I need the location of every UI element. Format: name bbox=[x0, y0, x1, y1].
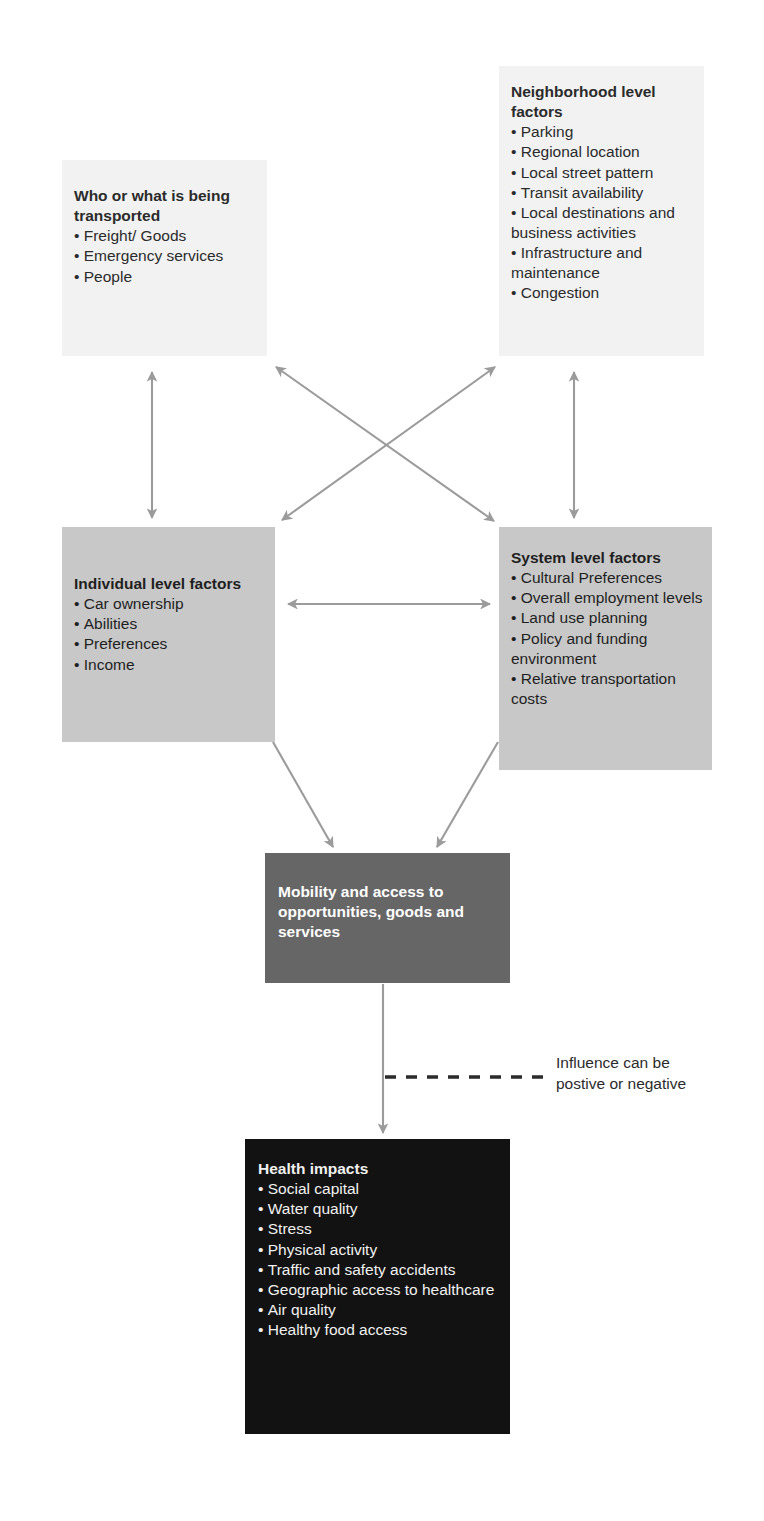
box-mobility[interactable]: Mobility and access to opportunities, go… bbox=[265, 853, 510, 983]
list-item: Congestion bbox=[511, 283, 700, 303]
list-item: Physical activity bbox=[258, 1240, 502, 1260]
influence-annotation-line2: postive or negative bbox=[556, 1074, 756, 1095]
list-item: Car ownership bbox=[74, 594, 267, 614]
list-item: Land use planning bbox=[511, 608, 708, 628]
list-item: Transit availability bbox=[511, 183, 700, 203]
list-item: Overall employment levels bbox=[511, 588, 708, 608]
box-health[interactable]: Health impacts Social capital Water qual… bbox=[245, 1139, 510, 1434]
list-item: People bbox=[74, 267, 257, 287]
box-neighborhood[interactable]: Neighborhood level factors Parking Regio… bbox=[499, 66, 704, 356]
list-item: Freight/ Goods bbox=[74, 226, 257, 246]
list-item: Emergency services bbox=[74, 246, 257, 266]
box-system[interactable]: System level factors Cultural Preference… bbox=[499, 527, 712, 770]
influence-annotation-line1: Influence can be bbox=[556, 1053, 756, 1074]
box-transported-list: Freight/ Goods Emergency services People bbox=[74, 226, 257, 286]
box-individual-list: Car ownership Abilities Preferences Inco… bbox=[74, 594, 267, 675]
list-item: Relative transportation costs bbox=[511, 669, 708, 709]
list-item: Traffic and safety accidents bbox=[258, 1260, 502, 1280]
list-item: Local street pattern bbox=[511, 163, 700, 183]
box-individual-title: Individual level factors bbox=[74, 574, 267, 594]
box-health-title: Health impacts bbox=[258, 1159, 502, 1179]
list-item: Stress bbox=[258, 1219, 502, 1239]
box-individual[interactable]: Individual level factors Car ownership A… bbox=[62, 527, 275, 742]
box-system-title: System level factors bbox=[511, 548, 708, 568]
box-system-list: Cultural Preferences Overall employment … bbox=[511, 568, 708, 709]
list-item: Preferences bbox=[74, 634, 267, 654]
box-transported[interactable]: Who or what is being transported Freight… bbox=[62, 160, 267, 356]
box-mobility-title: Mobility and access to opportunities, go… bbox=[278, 882, 500, 942]
box-health-list: Social capital Water quality Stress Phys… bbox=[258, 1179, 502, 1340]
list-item: Policy and funding environment bbox=[511, 629, 708, 669]
list-item: Cultural Preferences bbox=[511, 568, 708, 588]
list-item: Local destinations and business activiti… bbox=[511, 203, 700, 243]
connector-system-mobility bbox=[437, 742, 498, 847]
influence-annotation: Influence can be postive or negative bbox=[556, 1053, 756, 1094]
list-item: Abilities bbox=[74, 614, 267, 634]
list-item: Social capital bbox=[258, 1179, 502, 1199]
connector-individual-mobility bbox=[273, 742, 333, 847]
diagram-canvas: Who or what is being transported Freight… bbox=[0, 0, 764, 1521]
list-item: Healthy food access bbox=[258, 1320, 502, 1340]
box-neighborhood-list: Parking Regional location Local street p… bbox=[511, 122, 700, 303]
list-item: Income bbox=[74, 655, 267, 675]
list-item: Water quality bbox=[258, 1199, 502, 1219]
box-neighborhood-title: Neighborhood level factors bbox=[511, 82, 700, 122]
list-item: Regional location bbox=[511, 142, 700, 162]
box-transported-title: Who or what is being transported bbox=[74, 186, 257, 226]
connector-neighborhood-individual bbox=[276, 367, 494, 521]
connector-transported-system bbox=[282, 367, 495, 520]
list-item: Parking bbox=[511, 122, 700, 142]
list-item: Infrastructure and maintenance bbox=[511, 243, 700, 283]
list-item: Geographic access to healthcare bbox=[258, 1280, 502, 1300]
list-item: Air quality bbox=[258, 1300, 502, 1320]
